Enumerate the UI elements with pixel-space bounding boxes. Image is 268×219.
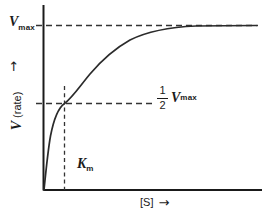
vmax-subscript: max — [18, 23, 35, 32]
km-label: Km — [77, 157, 94, 173]
y-axis-label: V (rate) — [10, 66, 24, 156]
half-vmax-subscript: max — [180, 94, 197, 102]
plot-area — [0, 0, 268, 219]
y-axis-arrow-icon: → — [7, 58, 20, 76]
one-half-fraction: 1 2 — [157, 85, 168, 111]
km-subscript: m — [86, 164, 93, 173]
y-axis-label-text: (rate) — [11, 92, 23, 121]
half-vmax-label: 1 2 Vmax — [157, 85, 197, 111]
fraction-denominator: 2 — [157, 99, 167, 112]
vmax-symbol: V — [9, 14, 18, 29]
fraction-numerator: 1 — [157, 85, 167, 98]
half-vmax-symbol: V — [171, 91, 180, 105]
vmax-label: Vmax — [9, 15, 35, 32]
velocity-curve — [44, 26, 256, 191]
x-axis-label-text: [S] — [140, 197, 153, 208]
x-axis-arrow-icon: → — [158, 196, 169, 209]
michaelis-menten-chart: Vmax 1 2 Vmax Km [S] → V (rate) → — [0, 0, 268, 219]
y-axis-label-symbol: V — [9, 121, 24, 130]
y-axis-arrow-glyph: → — [6, 61, 21, 72]
x-axis-label: [S] → — [140, 196, 169, 209]
km-symbol: K — [77, 156, 86, 171]
